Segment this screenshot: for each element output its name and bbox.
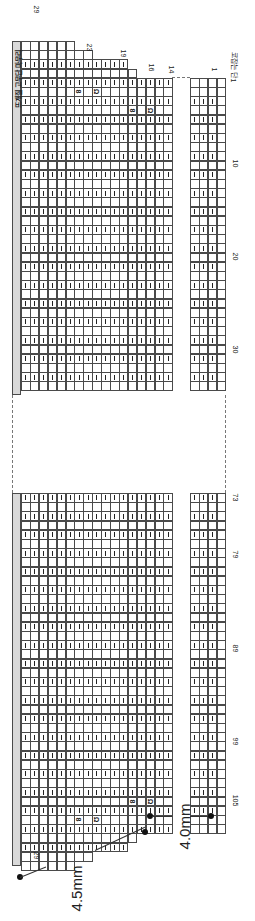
- purl-icon: [34, 753, 35, 758]
- purl-icon: [52, 356, 53, 361]
- purl-icon: [70, 62, 71, 67]
- purl-icon: [150, 80, 151, 85]
- purl-icon: [79, 62, 80, 67]
- purl-icon: [34, 172, 35, 177]
- row-number-label: 30: [232, 346, 239, 354]
- purl-icon: [123, 283, 124, 288]
- purl-icon: [52, 209, 53, 214]
- purl-icon: [52, 698, 53, 703]
- purl-icon: [159, 227, 160, 232]
- purl-icon: [212, 375, 213, 380]
- purl-icon: [34, 532, 35, 537]
- purl-icon: [34, 135, 35, 140]
- purl-icon: [114, 679, 115, 684]
- purl-icon: [25, 154, 26, 159]
- purl-icon: [96, 319, 97, 324]
- purl-icon: [203, 283, 204, 288]
- purl-icon: [123, 154, 124, 159]
- purl-icon: [203, 301, 204, 306]
- purl-icon: [52, 808, 53, 813]
- purl-icon: [79, 551, 80, 556]
- purl-icon: [105, 679, 106, 684]
- purl-icon: [79, 716, 80, 721]
- purl-icon: [61, 606, 62, 611]
- purl-icon: [159, 172, 160, 177]
- purl-icon: [105, 264, 106, 269]
- purl-icon: [194, 569, 195, 574]
- purl-icon: [212, 227, 213, 232]
- purl-icon: [79, 845, 80, 850]
- purl-icon: [159, 532, 160, 537]
- title-band-bottom: [12, 493, 21, 866]
- purl-icon: [79, 827, 80, 832]
- purl-icon: [141, 753, 142, 758]
- purl-icon: [141, 771, 142, 776]
- purl-icon: [114, 735, 115, 740]
- purl-icon: [52, 117, 53, 122]
- purl-icon: [61, 643, 62, 648]
- purl-icon: [96, 80, 97, 85]
- purl-icon: [141, 532, 142, 537]
- purl-icon: [34, 679, 35, 684]
- purl-icon: [25, 191, 26, 196]
- row-number-label: 79: [232, 551, 239, 559]
- purl-icon: [203, 661, 204, 666]
- stitch-count-label: 29: [33, 6, 40, 14]
- purl-icon: [194, 624, 195, 629]
- purl-icon: [25, 135, 26, 140]
- purl-icon: [25, 80, 26, 85]
- purl-icon: [105, 135, 106, 140]
- purl-icon: [194, 99, 195, 104]
- purl-icon: [70, 753, 71, 758]
- purl-icon: [25, 735, 26, 740]
- purl-icon: [212, 99, 213, 104]
- purl-icon: [43, 191, 44, 196]
- purl-icon: [34, 735, 35, 740]
- title-band-label: 뜨개질 고무단 마무리: [13, 50, 23, 108]
- purl-icon: [70, 771, 71, 776]
- purl-icon: [61, 356, 62, 361]
- purl-icon: [70, 569, 71, 574]
- purl-icon: [105, 99, 106, 104]
- purl-icon: [96, 154, 97, 159]
- purl-icon: [61, 246, 62, 251]
- purl-icon: [132, 338, 133, 343]
- purl-icon: [150, 587, 151, 592]
- row-number-label: 10: [232, 160, 239, 168]
- purl-icon: [25, 606, 26, 611]
- purl-icon: [96, 301, 97, 306]
- purl-icon: [203, 227, 204, 232]
- purl-icon: [79, 209, 80, 214]
- purl-icon: [150, 679, 151, 684]
- purl-icon: [168, 808, 169, 813]
- purl-icon: [159, 569, 160, 574]
- purl-icon: [34, 495, 35, 500]
- purl-icon: [141, 735, 142, 740]
- purl-icon: [43, 827, 44, 832]
- purl-icon: [168, 827, 169, 832]
- purl-icon: [105, 790, 106, 795]
- purl-icon: [79, 753, 80, 758]
- purl-icon: [43, 606, 44, 611]
- purl-icon: [114, 698, 115, 703]
- purl-icon: [43, 551, 44, 556]
- purl-icon: [203, 771, 204, 776]
- purl-icon: [212, 301, 213, 306]
- purl-icon: [25, 319, 26, 324]
- purl-icon: [52, 643, 53, 648]
- purl-icon: [132, 735, 133, 740]
- purl-icon: [79, 771, 80, 776]
- purl-icon: [61, 375, 62, 380]
- purl-icon: [132, 246, 133, 251]
- purl-icon: [96, 679, 97, 684]
- purl-icon: [132, 716, 133, 721]
- purl-icon: [34, 319, 35, 324]
- purl-icon: [141, 246, 142, 251]
- purl-icon: [43, 209, 44, 214]
- purl-icon: [52, 735, 53, 740]
- purl-icon: [203, 716, 204, 721]
- purl-icon: [34, 301, 35, 306]
- purl-icon: [34, 375, 35, 380]
- purl-icon: [88, 735, 89, 740]
- purl-icon: [25, 845, 26, 850]
